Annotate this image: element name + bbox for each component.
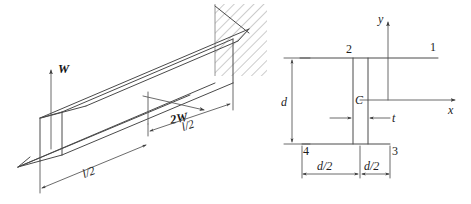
dimension-label-half-width-right: d/2 [364, 159, 379, 173]
force-label-W: W [58, 62, 70, 76]
point-label-2: 2 [346, 42, 352, 56]
beam-diagram-group: W 2W l/2 l/2 [18, 4, 267, 193]
dimension-label-l-half-far: l/2 [180, 117, 196, 134]
centroid-label-C: C [355, 93, 364, 107]
dimension-label-depth-d: d [281, 95, 288, 109]
dimension-label-thickness-t: t [392, 111, 396, 125]
engineering-figure: W 2W l/2 l/2 [0, 0, 471, 204]
point-label-1: 1 [430, 40, 436, 54]
figure-canvas: W 2W l/2 l/2 [0, 0, 471, 204]
axis-label-y: y [377, 12, 384, 26]
section-diagram-group: y x C 2 1 3 4 [281, 12, 455, 178]
dimension-label-half-width-left: d/2 [317, 159, 332, 173]
point-label-3: 3 [392, 144, 398, 158]
axis-label-x: x [447, 103, 454, 117]
section-outline [300, 58, 438, 144]
point-label-4: 4 [303, 144, 309, 158]
dimension-l-half-near [40, 136, 148, 193]
dimension-depth-d [284, 58, 353, 144]
